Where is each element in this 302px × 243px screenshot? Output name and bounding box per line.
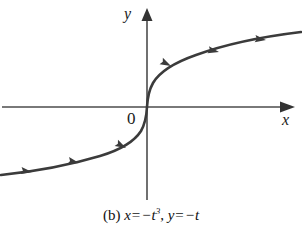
- y-axis-arrowhead: [142, 8, 153, 21]
- origin-label: 0: [127, 110, 136, 127]
- x-axis-label: x: [282, 112, 289, 128]
- figure-caption: (b) x=−t3, y=−t: [0, 207, 302, 224]
- plot-canvas: [0, 0, 302, 210]
- caption-equals-1: =: [131, 207, 141, 223]
- caption-x-variable: x: [124, 207, 131, 223]
- parametric-curve: [1, 32, 301, 175]
- caption-x-expression: −t: [141, 207, 155, 223]
- caption-y-expression: −t: [185, 207, 199, 223]
- y-axis-label: y: [124, 6, 131, 22]
- plot-area: y x 0: [0, 0, 302, 210]
- parametric-curve-figure: y x 0 (b) x=−t3, y=−t: [0, 0, 302, 243]
- caption-part-label: (b): [103, 207, 121, 223]
- caption-equals-2: =: [174, 207, 184, 223]
